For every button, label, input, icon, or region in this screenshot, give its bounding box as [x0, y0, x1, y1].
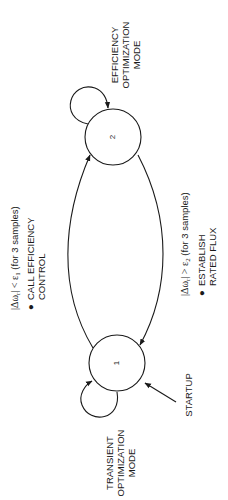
state-2-number: 2: [108, 134, 117, 139]
state-1-name-line-2: OPTIMIZATION: [115, 429, 126, 496]
action-line-1b: CONTROL: [36, 254, 47, 300]
startup-label: STARTUP: [183, 373, 194, 416]
transition-1-to-2-condition: |Δωr| < ε1 (for 3 samples): [9, 206, 22, 310]
startup-text: STARTUP: [183, 373, 194, 416]
state-diagram: 2 1 EFFICIENCY OPTIMIZATION MODE TRANSIE…: [0, 0, 228, 500]
state-2-name-line-3: MODE: [131, 41, 142, 70]
transition-1-to-2-action: ● CALL EFFICIENCY CONTROL: [25, 217, 47, 310]
state-2-efficiency[interactable]: 2: [85, 109, 141, 165]
state-2-name-line-2: OPTIMIZATION: [120, 21, 131, 88]
state-2-name-label: EFFICIENCY OPTIMIZATION MODE: [109, 21, 142, 88]
state-1-transient[interactable]: 1: [89, 335, 145, 391]
transition-2-to-1-condition: |Δωr| > ε2 (for 3 samples): [179, 192, 192, 296]
action-bullet-1: ●: [25, 304, 36, 310]
state-1-name-label: TRANSIENT OPTIMIZATION MODE: [104, 429, 137, 496]
transition-2-to-1: [138, 155, 163, 345]
transition-2-to-1-action: ● ESTABLISH RATED FLUX: [196, 227, 218, 296]
action-line-2b: RATED FLUX: [207, 227, 218, 286]
action-line-1a: CALL EFFICIENCY: [25, 217, 36, 300]
state-1-name-line-1: TRANSIENT: [104, 436, 115, 490]
state-1-number: 1: [112, 360, 121, 365]
state-2-name-line-1: EFFICIENCY: [109, 26, 120, 83]
action-bullet-2: ●: [196, 290, 207, 296]
condition-text-2: |Δωr| > ε2 (for 3 samples): [179, 192, 192, 296]
transition-1-to-2: [68, 155, 93, 348]
startup-arrow: [145, 383, 176, 402]
condition-text-1: |Δωr| < ε1 (for 3 samples): [9, 206, 22, 310]
action-line-2a: ESTABLISH: [196, 234, 207, 286]
state-1-name-line-3: MODE: [126, 449, 137, 478]
